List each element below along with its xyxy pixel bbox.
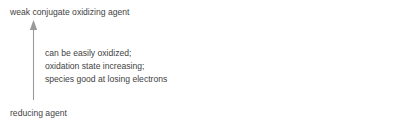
weak-conjugate-oxidizing-agent-label: weak conjugate oxidizing agent (10, 7, 129, 18)
oxidation-half-panel: weak conjugate oxidizing agent can be ea… (0, 0, 207, 129)
reducing-agent-label: reducing agent (10, 108, 67, 119)
description-line: oxidation state increasing; (45, 60, 167, 73)
description-line: can be easily oxidized; (45, 47, 167, 60)
arrow-up-icon (29, 20, 38, 101)
description-line: species good at losing electrons (45, 73, 167, 86)
reduction-half-panel: oxidizing agent can be easily reduced; o… (207, 0, 415, 129)
oxidation-description: can be easily oxidized; oxidation state … (45, 47, 167, 86)
